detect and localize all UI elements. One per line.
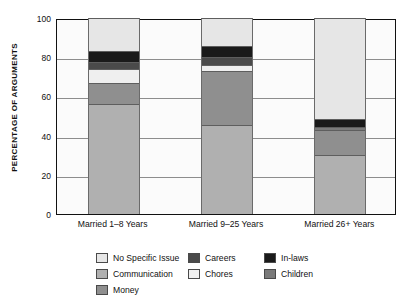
chart-legend: No Specific IssueCareersIn-lawsCommunica… — [96, 250, 396, 298]
y-tick-label: 100 — [10, 14, 56, 24]
bar-segment — [202, 18, 252, 46]
bar-segment — [315, 130, 365, 155]
y-tick-label: 0 — [10, 210, 56, 220]
y-tick-label: 80 — [10, 53, 56, 63]
legend-label: No Specific Issue — [113, 253, 179, 263]
bar-segment — [202, 46, 252, 57]
bar-segment — [202, 71, 252, 125]
x-axis-tick-labels: Married 1–8 YearsMarried 9–25 YearsMarri… — [56, 219, 396, 237]
plot-area — [56, 19, 396, 215]
legend-swatch-icon — [188, 269, 200, 279]
legend-label: Communication — [113, 269, 173, 279]
x-tick-label: Married 26+ Years — [304, 219, 374, 229]
legend-swatch-icon — [188, 253, 200, 263]
legend-label: Careers — [205, 253, 236, 263]
legend-label: Chores — [205, 269, 233, 279]
legend-swatch-icon — [264, 269, 276, 279]
legend-item: Communication — [96, 269, 188, 279]
x-tick-label: Married 9–25 Years — [189, 219, 264, 229]
bar-segment — [315, 18, 365, 119]
bar-segment — [202, 57, 252, 65]
bar-segment — [89, 104, 139, 214]
legend-item: Money — [96, 285, 188, 295]
bar-3 — [314, 18, 366, 214]
legend-label: In-laws — [281, 253, 308, 263]
legend-item: No Specific Issue — [96, 253, 188, 263]
legend-item: In-laws — [264, 253, 354, 263]
bar-2 — [201, 18, 253, 214]
legend-item: Chores — [188, 269, 264, 279]
bar-1 — [88, 18, 140, 214]
bar-segment — [315, 127, 365, 130]
bar-segment — [202, 125, 252, 214]
bar-segment — [202, 65, 252, 71]
x-tick-label: Married 1–8 Years — [78, 219, 148, 229]
y-tick-label: 60 — [10, 92, 56, 102]
bar-segment — [89, 51, 139, 62]
legend-swatch-icon — [264, 253, 276, 263]
legend-item: Careers — [188, 253, 264, 263]
bar-segment — [315, 155, 365, 214]
legend-item: Children — [264, 269, 354, 279]
bar-segment — [89, 83, 139, 105]
legend-label: Money — [113, 285, 139, 295]
legend-swatch-icon — [96, 285, 108, 295]
y-axis-tick-labels: 020406080100 — [0, 19, 56, 215]
legend-swatch-icon — [96, 253, 108, 263]
bar-segment — [89, 62, 139, 69]
y-tick-label: 40 — [10, 132, 56, 142]
bar-segment — [315, 119, 365, 127]
legend-swatch-icon — [96, 269, 108, 279]
y-tick-label: 20 — [10, 171, 56, 181]
bar-segment — [89, 18, 139, 51]
bar-segment — [89, 69, 139, 83]
legend-label: Children — [281, 269, 313, 279]
stacked-bar-chart: PERCENTAGE OF ARGUMENTS 020406080100 Mar… — [0, 0, 420, 304]
